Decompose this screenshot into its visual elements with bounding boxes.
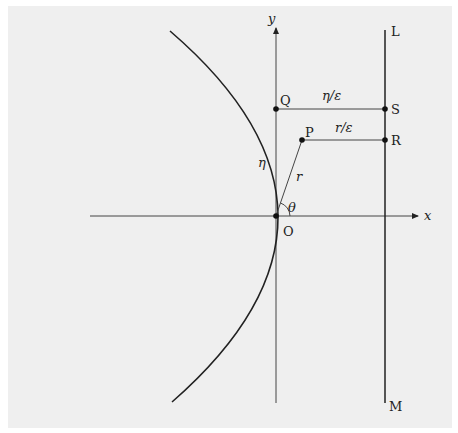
label-theta: θ <box>288 200 296 215</box>
label-r: R <box>391 133 402 148</box>
label-q: Q <box>280 93 291 108</box>
label-m: M <box>389 399 402 414</box>
point-p <box>299 137 305 143</box>
conic-diagram: y x L M Q S P R O η/ε r/ε η r θ <box>0 0 458 433</box>
label-eta-over-eps: η/ε <box>322 88 341 103</box>
x-axis-label: x <box>424 208 432 223</box>
point-r <box>382 137 388 143</box>
label-s: S <box>391 102 400 117</box>
label-r: r <box>296 169 303 184</box>
y-axis-label: y <box>267 11 276 26</box>
label-l: L <box>391 24 400 39</box>
point-s <box>382 106 388 112</box>
label-r-over-eps: r/ε <box>335 120 353 135</box>
label-eta: η <box>258 155 266 170</box>
label-p: P <box>305 125 314 140</box>
point-o <box>273 213 279 219</box>
point-q <box>273 106 279 112</box>
label-o: O <box>283 224 294 239</box>
